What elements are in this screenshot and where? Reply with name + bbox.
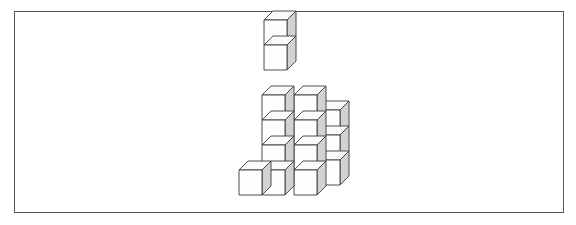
cube-stack-drawing [0, 0, 576, 225]
figure-canvas [0, 0, 576, 225]
cube-front-face [294, 170, 317, 195]
cube-c1 [239, 161, 271, 195]
cube-c8 [294, 161, 326, 195]
cube-group [239, 11, 349, 195]
cube-front-face [239, 170, 262, 195]
cube-front-face [264, 45, 287, 70]
cube-c6 [264, 36, 296, 70]
